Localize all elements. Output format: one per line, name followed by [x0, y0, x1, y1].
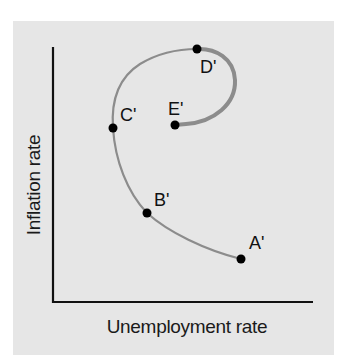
- point-b: [143, 209, 152, 218]
- label-b: B': [154, 191, 169, 209]
- curve-a-to-d: [113, 49, 241, 259]
- chart-plot: [0, 0, 344, 361]
- point-a: [237, 255, 246, 264]
- label-e: E': [168, 100, 183, 118]
- x-axis-label: Unemployment rate: [107, 316, 268, 338]
- label-c: C': [120, 106, 136, 124]
- label-a: A': [249, 234, 264, 252]
- y-axis-label: Inflation rate: [23, 135, 45, 235]
- point-d: [193, 45, 202, 54]
- label-d: D': [200, 58, 216, 76]
- point-c: [109, 124, 118, 133]
- point-e: [171, 121, 180, 130]
